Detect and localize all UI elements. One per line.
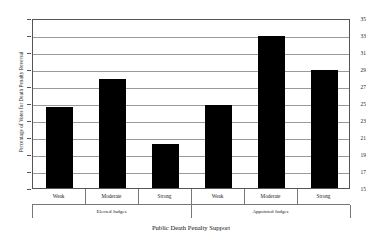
- gridline: [33, 122, 349, 123]
- gridline: [33, 54, 349, 55]
- category-separator: [297, 189, 298, 204]
- gridline: [33, 37, 349, 38]
- bar: [46, 107, 73, 188]
- gridline: [33, 88, 349, 89]
- bar: [311, 70, 338, 188]
- gridline: [33, 71, 349, 72]
- category-label: Strong: [297, 189, 350, 204]
- y-tick-mark: [27, 70, 31, 71]
- plot-area: [32, 19, 350, 189]
- category-label: Strong: [138, 189, 191, 204]
- category-label: Moderate: [244, 189, 297, 204]
- category-separator: [85, 189, 86, 204]
- bar: [152, 144, 179, 188]
- group-separator: [32, 205, 33, 218]
- gridline: [33, 156, 349, 157]
- y-tick-mark: [27, 87, 31, 88]
- gridline: [33, 173, 349, 174]
- y-tick-mark: [27, 121, 31, 122]
- category-axis-row: WeakModerateStrongWeakModerateStrong: [32, 189, 350, 204]
- bar: [258, 36, 285, 188]
- gridline: [33, 105, 349, 106]
- bar: [205, 105, 232, 188]
- category-label: Moderate: [85, 189, 138, 204]
- category-separator: [138, 189, 139, 204]
- category-label: Weak: [32, 189, 85, 204]
- category-separator: [191, 189, 192, 204]
- group-separator: [350, 205, 351, 218]
- y-tick-mark: [27, 138, 31, 139]
- y-tick-mark: [27, 36, 31, 37]
- y-tick-mark: [27, 155, 31, 156]
- group-label: Appointed Judges: [191, 206, 350, 218]
- gridline: [33, 139, 349, 140]
- x-axis-title: Public Death Penalty Support: [32, 222, 350, 234]
- y-tick-mark: [27, 189, 31, 190]
- bar-chart-figure: Percentage of Votes for Death Penalty Re…: [0, 0, 366, 244]
- category-label: Weak: [191, 189, 244, 204]
- category-separator: [244, 189, 245, 204]
- y-tick-mark: [27, 104, 31, 105]
- y-tick-mark: [27, 172, 31, 173]
- group-separator: [191, 205, 192, 218]
- y-tick-mark: [27, 19, 31, 20]
- bar: [99, 79, 126, 188]
- y-axis-title: Percentage of Votes for Death Penalty Re…: [14, 4, 28, 200]
- y-tick-mark: [27, 53, 31, 54]
- group-label: Elected Judges: [32, 206, 191, 218]
